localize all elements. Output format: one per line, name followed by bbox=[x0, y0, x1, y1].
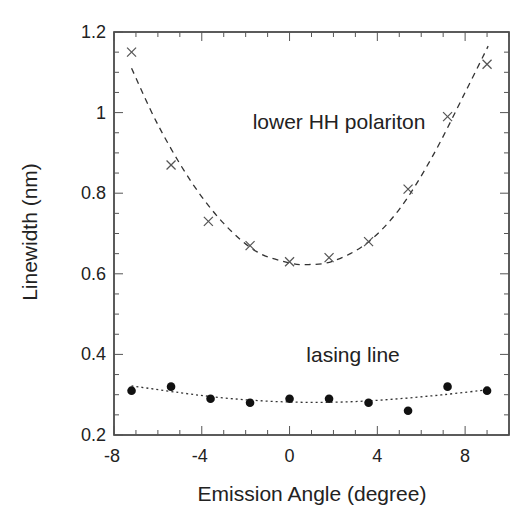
dot-marker bbox=[483, 386, 492, 395]
dot-marker bbox=[285, 394, 294, 403]
x-tick-label: 4 bbox=[372, 446, 382, 466]
dot-marker bbox=[325, 394, 334, 403]
dot-marker bbox=[364, 398, 373, 407]
y-axis-title: Linewidth (nm) bbox=[18, 163, 41, 301]
x-marker bbox=[167, 160, 176, 169]
x-marker bbox=[364, 237, 373, 246]
polariton-fit-curve bbox=[132, 46, 489, 265]
x-tick-label: -8 bbox=[104, 446, 120, 466]
x-tick-label: 8 bbox=[460, 446, 470, 466]
y-tick-label: 1.2 bbox=[81, 22, 106, 42]
tick-labels: -8-40480.20.40.60.811.2 bbox=[81, 22, 470, 466]
annotation-lasing-line: lasing line bbox=[306, 343, 399, 366]
y-tick-label: 0.6 bbox=[81, 264, 106, 284]
lasing-fit-curve bbox=[132, 386, 488, 403]
plot-frame bbox=[114, 32, 509, 435]
plot-area bbox=[114, 32, 509, 435]
y-tick-label: 0.2 bbox=[81, 425, 106, 445]
dot-marker bbox=[443, 382, 452, 391]
x-marker bbox=[483, 60, 492, 69]
linewidth-chart: -8-40480.20.40.60.811.2 lower HH polarit… bbox=[0, 0, 528, 529]
axis-ticks bbox=[114, 32, 509, 435]
dot-marker bbox=[404, 407, 413, 416]
dot-marker bbox=[206, 394, 215, 403]
x-marker bbox=[204, 217, 213, 226]
x-marker bbox=[443, 112, 452, 121]
x-marker bbox=[127, 48, 136, 57]
x-marker bbox=[404, 185, 413, 194]
x-axis-title: Emission Angle (degree) bbox=[198, 482, 427, 505]
x-marker bbox=[325, 253, 334, 262]
y-tick-label: 0.8 bbox=[81, 183, 106, 203]
y-tick-label: 1 bbox=[96, 103, 106, 123]
x-tick-label: 0 bbox=[285, 446, 295, 466]
dot-marker bbox=[246, 398, 255, 407]
y-tick-label: 0.4 bbox=[81, 344, 106, 364]
annotation-lower-hh-polariton: lower HH polariton bbox=[253, 110, 426, 133]
dot-marker bbox=[127, 386, 136, 395]
dot-marker bbox=[167, 382, 176, 391]
x-tick-label: -4 bbox=[192, 446, 208, 466]
